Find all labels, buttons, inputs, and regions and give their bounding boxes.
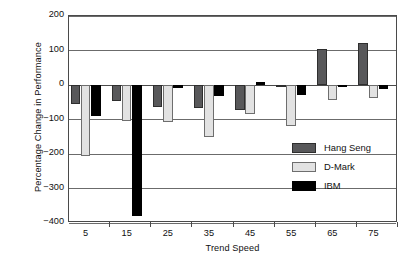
- bar-d-mark-45: [245, 85, 255, 114]
- x-tick: [191, 222, 192, 227]
- bar-ibm-5: [91, 85, 101, 116]
- y-tick-label: −200: [22, 148, 64, 157]
- y-tick-label: −400: [22, 217, 64, 226]
- y-tick-label: 100: [22, 45, 64, 54]
- y-tick-label: −100: [22, 114, 64, 123]
- x-tick-label: 35: [194, 228, 224, 239]
- x-tick: [397, 222, 398, 227]
- bar-d-mark-75: [369, 85, 379, 98]
- bar-ibm-15: [132, 85, 142, 216]
- bar-hang-seng-35: [194, 85, 204, 108]
- bar-ibm-25: [173, 85, 183, 88]
- bar-hang-seng-65: [317, 49, 327, 85]
- bar-hang-seng-5: [71, 85, 81, 104]
- legend-swatch-ibm: [292, 181, 316, 191]
- x-axis-title: Trend Speed: [68, 243, 397, 253]
- x-tick: [109, 222, 110, 227]
- legend-swatch-d-mark: [292, 162, 316, 172]
- bar-hang-seng-55: [276, 85, 286, 87]
- y-axis-tick-labels: 2001000−100−200−300−400: [22, 0, 64, 264]
- bar-d-mark-55: [286, 85, 296, 126]
- x-tick-label: 75: [358, 228, 388, 239]
- x-tick-label: 65: [317, 228, 347, 239]
- bar-hang-seng-75: [358, 43, 368, 85]
- bar-hang-seng-25: [153, 85, 163, 107]
- bar-d-mark-65: [328, 85, 338, 100]
- bar-d-mark-5: [81, 85, 91, 156]
- bar-d-mark-15: [122, 85, 132, 121]
- x-tick: [150, 222, 151, 227]
- x-tick-label: 25: [153, 228, 183, 239]
- bar-ibm-55: [297, 85, 307, 95]
- bar-ibm-35: [214, 85, 224, 96]
- x-tick-label: 5: [71, 228, 101, 239]
- x-tick-label: 55: [276, 228, 306, 239]
- bar-chart: Percentage Change in Performance 2001000…: [0, 0, 415, 264]
- bar-d-mark-25: [163, 85, 173, 122]
- bar-d-mark-35: [204, 85, 214, 137]
- x-axis-tick-labels: 515253545556575: [68, 228, 397, 242]
- bar-ibm-75: [379, 85, 389, 89]
- x-tick: [315, 222, 316, 227]
- legend-item-hang-seng: Hang Seng: [292, 138, 396, 157]
- chart-legend: Hang SengD-MarkIBM: [292, 138, 396, 195]
- x-tick: [356, 222, 357, 227]
- y-tick-label: 0: [22, 79, 64, 88]
- bar-ibm-65: [338, 85, 348, 87]
- x-tick-label: 15: [112, 228, 142, 239]
- legend-item-d-mark: D-Mark: [292, 157, 396, 176]
- y-tick-label: 200: [22, 10, 64, 19]
- legend-swatch-hang-seng: [292, 143, 316, 153]
- bar-ibm-45: [256, 82, 266, 85]
- y-tick-label: −300: [22, 183, 64, 192]
- legend-label: Hang Seng: [324, 142, 371, 153]
- x-tick: [233, 222, 234, 227]
- legend-label: D-Mark: [324, 161, 355, 172]
- legend-item-ibm: IBM: [292, 176, 396, 195]
- legend-label: IBM: [324, 180, 341, 191]
- x-tick-label: 45: [235, 228, 265, 239]
- x-tick: [274, 222, 275, 227]
- bar-hang-seng-15: [112, 85, 122, 101]
- bar-hang-seng-45: [235, 85, 245, 110]
